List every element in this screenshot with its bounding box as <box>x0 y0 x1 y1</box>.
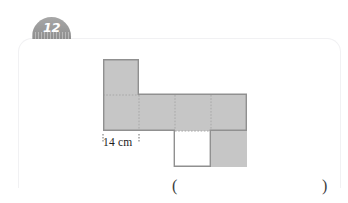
net-cell-middle-3 <box>175 95 211 131</box>
net-cell-middle-2 <box>139 95 175 131</box>
net-cell-bottom <box>211 131 247 167</box>
net-cell-middle-right <box>211 95 247 131</box>
question-number-label: 12 <box>32 19 71 37</box>
cube-net-figure <box>103 59 247 167</box>
answer-paren-left: ( <box>172 178 177 194</box>
question-number-badge: 12 <box>32 17 71 39</box>
net-cell-middle-left <box>103 95 139 131</box>
worksheet-page: 12 14 cm ( ) <box>0 0 348 203</box>
net-cell-top <box>103 59 139 95</box>
measurement-label: 14 cm <box>103 136 132 148</box>
answer-paren-right: ) <box>322 178 327 194</box>
